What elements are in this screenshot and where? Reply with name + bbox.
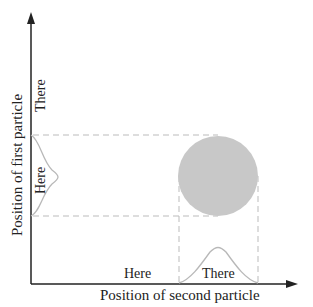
y-axis-label: Position of first particle bbox=[10, 94, 25, 236]
y-tick-here: Here bbox=[34, 167, 48, 194]
probability-region bbox=[178, 136, 258, 216]
x-tick-there: There bbox=[202, 267, 235, 281]
x-axis-arrow-icon bbox=[286, 280, 298, 288]
diagram-canvas bbox=[0, 0, 313, 307]
y-axis-arrow-icon bbox=[27, 12, 35, 24]
x-axis-label: Position of second particle bbox=[100, 288, 260, 303]
y-tick-there: There bbox=[34, 79, 48, 112]
x-tick-here: Here bbox=[124, 267, 151, 281]
